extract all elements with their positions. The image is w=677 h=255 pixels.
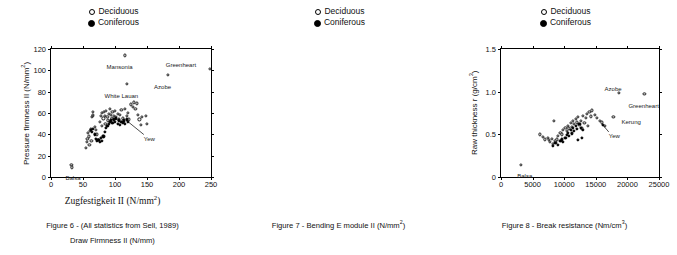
y-tick-label: 40 bbox=[38, 130, 46, 139]
legend-item-coniferous: Coniferous bbox=[452, 17, 677, 28]
figure-panel-7: Deciduous Coniferous 00.51.01.5050001000… bbox=[226, 0, 451, 255]
x-tick-top bbox=[211, 46, 212, 49]
y-tick-label: 100 bbox=[33, 66, 46, 75]
filled-circle-icon bbox=[86, 17, 95, 28]
y-tick-label: 80 bbox=[38, 87, 46, 96]
legend-figure-8: Deciduous Coniferous bbox=[452, 6, 677, 29]
open-circle-icon bbox=[312, 6, 321, 17]
y-tick-right bbox=[211, 134, 214, 135]
x-tick-label: 250 bbox=[205, 180, 218, 189]
figure-panel-8: Deciduous Coniferous 010203040500481216G… bbox=[452, 0, 677, 255]
legend-item-coniferous: Coniferous bbox=[226, 17, 451, 28]
y-tick-label: 0 bbox=[42, 173, 46, 182]
legend-label-coniferous: Coniferous bbox=[324, 18, 365, 28]
y-tick-right bbox=[211, 70, 214, 71]
caption-line1-figure-7: Figure 7 - Bending E module II (N/mm2) bbox=[226, 221, 451, 230]
caption-line1-figure-6: Figure 6 - (All statistics from Sell, 19… bbox=[0, 221, 225, 230]
y-axis-title-figure-6: Pressure firmness II (N/mm2) bbox=[22, 61, 31, 164]
y-tick-right bbox=[211, 113, 214, 114]
y-tick-label: 120 bbox=[33, 45, 46, 54]
legend-figure-6: Deciduous Coniferous bbox=[0, 6, 225, 29]
y-tick-label: 20 bbox=[38, 151, 46, 160]
caption-line1-figure-8: Figure 8 - Break resistance (Nm/cm3) bbox=[452, 221, 677, 230]
legend-item-coniferous: Coniferous bbox=[0, 17, 225, 28]
legend-item-deciduous: Deciduous bbox=[452, 6, 677, 17]
y-tick-right bbox=[211, 49, 214, 50]
legend-figure-7: Deciduous Coniferous bbox=[226, 6, 451, 29]
legend-item-deciduous: Deciduous bbox=[0, 6, 225, 17]
x-tick-label: 0 bbox=[49, 180, 53, 189]
filled-circle-icon bbox=[312, 17, 321, 28]
x-axis-title-figure-6: Zugfestigkeit II (N/mm2) bbox=[0, 196, 225, 206]
x-tick-label: 200 bbox=[173, 180, 186, 189]
x-tick-label: 150 bbox=[141, 180, 154, 189]
leader-line-yew bbox=[51, 49, 211, 177]
legend-label-deciduous: Deciduous bbox=[98, 6, 138, 16]
legend-item-deciduous: Deciduous bbox=[226, 6, 451, 17]
figure-sheet: Deciduous Coniferous 0204060801001200501… bbox=[0, 0, 677, 255]
x-tick-label: 100 bbox=[109, 180, 122, 189]
legend-label-coniferous: Coniferous bbox=[550, 18, 591, 28]
open-circle-icon bbox=[538, 6, 547, 17]
filled-circle-icon bbox=[538, 17, 547, 28]
legend-label-coniferous: Coniferous bbox=[98, 18, 139, 28]
scatter-plot-figure-6: 020406080100120050100150200250MansoniaGr… bbox=[50, 48, 212, 178]
legend-label-deciduous: Deciduous bbox=[550, 6, 590, 16]
caption-line2-figure-6: Draw Firmness II (N/mm) bbox=[0, 236, 225, 245]
x-tick-label: 50 bbox=[79, 180, 87, 189]
open-circle-icon bbox=[86, 6, 95, 17]
legend-label-deciduous: Deciduous bbox=[324, 6, 364, 16]
figure-panel-6: Deciduous Coniferous 0204060801001200501… bbox=[0, 0, 225, 255]
y-tick-label: 60 bbox=[38, 109, 46, 118]
y-tick-right bbox=[211, 156, 214, 157]
y-tick-right bbox=[211, 92, 214, 93]
